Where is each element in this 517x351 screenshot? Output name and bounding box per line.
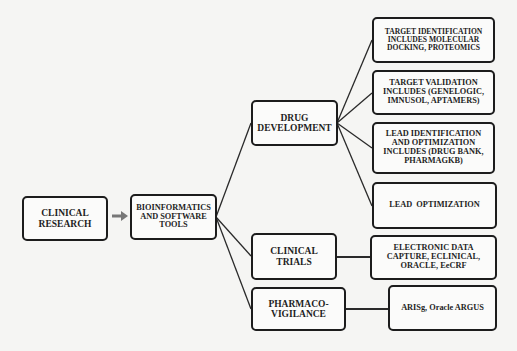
node-drug-development: DRUG DEVELOPMENT <box>251 100 338 146</box>
edge-drug-targetval <box>337 93 372 123</box>
node-target-identification: TARGET IDENTIFICATION INCLUDES MOLECULAR… <box>372 17 495 63</box>
arrow-icon <box>112 211 128 221</box>
diagram-canvas: CLINICAL RESEARCH BIOINFORMATICS AND SOF… <box>0 0 517 351</box>
node-clinical-research: CLINICAL RESEARCH <box>22 196 108 241</box>
node-clinical-trials: CLINICAL TRIALS <box>251 233 337 280</box>
node-edc: ELECTRONIC DATA CAPTURE, ECLINICAL, ORAC… <box>370 235 497 280</box>
edge-bio-drug <box>216 123 251 217</box>
node-bioinformatics: BIOINFORMATICS AND SOFTWARE TOOLS <box>130 194 217 240</box>
node-arisg: ARISg, Oracle ARGUS <box>388 285 497 331</box>
edge-bio-trials <box>216 217 251 256</box>
node-lead-optimization: LEAD OPTIMIZATION <box>372 182 497 229</box>
edge-bio-pharma <box>216 217 251 309</box>
edge-drug-targetid <box>337 40 372 123</box>
node-lead-identification: LEAD IDENTIFICATION AND OPTIMIZATION INC… <box>372 122 495 174</box>
node-target-validation: TARGET VALIDATION INCLUDES (GENELOGIC, I… <box>372 70 495 115</box>
node-pharmacovigilance: PHARMACO-VIGILANCE <box>251 287 346 331</box>
